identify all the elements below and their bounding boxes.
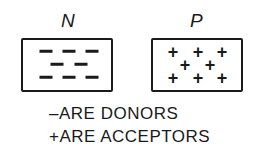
acceptor-plus: + [217, 69, 228, 87]
p-region-box: + + + + + + + + [151, 38, 243, 92]
acceptor-plus: + [205, 56, 216, 74]
n-label: N [61, 10, 75, 32]
legend-donors: –ARE DONORS [49, 104, 178, 124]
n-region-box [21, 38, 113, 92]
acceptor-plus: + [168, 43, 179, 61]
donor-dash [63, 76, 76, 79]
donor-dash [51, 63, 64, 66]
donor-dash [40, 50, 53, 53]
donor-dash [86, 76, 99, 79]
legend-acceptors: +ARE ACCEPTORS [49, 127, 210, 147]
acceptor-plus: + [168, 69, 179, 87]
acceptor-plus: + [193, 43, 204, 61]
acceptor-plus: + [193, 69, 204, 87]
p-label: P [190, 10, 203, 32]
donor-dash [86, 50, 99, 53]
acceptor-plus: + [217, 43, 228, 61]
donor-dash [63, 50, 76, 53]
donor-dash [75, 63, 88, 66]
donor-dash [40, 76, 53, 79]
acceptor-plus: + [180, 56, 191, 74]
